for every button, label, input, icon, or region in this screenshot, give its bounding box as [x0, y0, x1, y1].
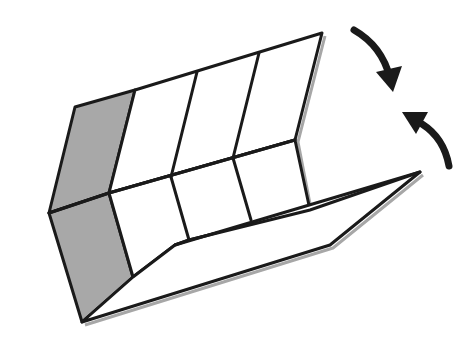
fold-up-arrow — [402, 112, 449, 166]
folding-box-diagram — [0, 0, 475, 345]
fold-down-arrow — [354, 30, 402, 92]
